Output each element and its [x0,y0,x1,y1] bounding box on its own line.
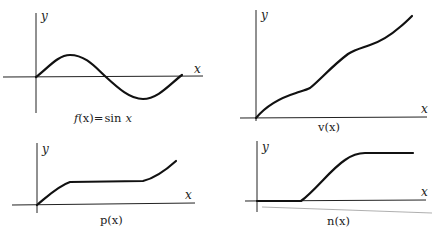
caption-sin: f(x)=sinx [73,111,132,125]
caption-n: n(x) [327,214,350,228]
y-axis-label: y [261,140,269,154]
x-axis-label: x [185,188,192,202]
x-axis [3,76,203,77]
x-axis-label: x [194,62,201,76]
panel-p: y x p(x) [12,142,195,227]
y-axis-label: y [40,9,48,23]
faint-guide-line [262,207,432,213]
caption-v: v(x) [317,120,340,134]
function-graphs-figure: y x f(x)=sinx y x v(x) y x p(x) y x n(x) [0,0,435,230]
panel-v: y x v(x) [240,8,428,134]
panel-sin: y x f(x)=sinx [3,9,203,125]
panel-n: y x n(x) [245,140,432,228]
p-curve [37,161,176,205]
y-axis-label: y [41,142,49,156]
x-axis-label: x [421,102,428,116]
v-curve [256,16,412,118]
n-curve [257,153,413,201]
caption-p: p(x) [100,213,123,227]
x-axis [240,117,427,118]
y-axis-label: y [260,8,268,22]
x-axis-label: x [421,185,428,199]
